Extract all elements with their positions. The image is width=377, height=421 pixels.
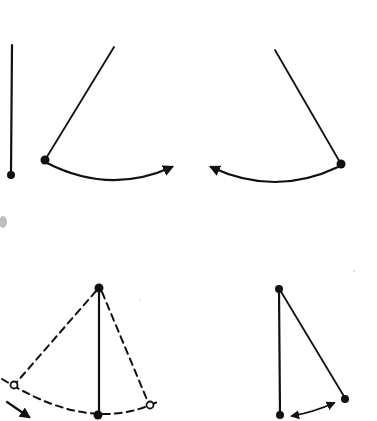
pendulum-bob <box>7 171 15 179</box>
displaced-bob <box>341 395 349 403</box>
fig-amplitude <box>2 284 160 420</box>
pendulum-string <box>45 47 114 160</box>
fig-rest <box>7 45 15 179</box>
double-headed-arrow <box>292 403 334 416</box>
fig-swing-right <box>41 47 173 180</box>
pivot-point <box>275 285 283 293</box>
rest-string <box>279 290 280 414</box>
extreme-left-bob <box>11 382 18 389</box>
displaced-string <box>280 290 345 398</box>
pendulum-string <box>11 45 12 173</box>
dashed-string-right <box>102 292 148 402</box>
pendulum-diagram <box>0 0 377 421</box>
rest-bob <box>276 411 284 419</box>
pendulum-bob <box>94 411 103 420</box>
pivot-point <box>95 284 104 293</box>
fig-swing-left <box>211 50 346 182</box>
scan-speck <box>353 270 355 272</box>
dashed-string-left <box>16 291 96 383</box>
motion-arrow <box>7 402 29 417</box>
swing-arrow-right <box>47 163 172 180</box>
dashed-swing-arc <box>2 379 160 414</box>
fig-small-oscillation <box>275 285 349 419</box>
pendulum-string <box>275 50 341 164</box>
scan-speck <box>139 299 141 301</box>
scan-smudge <box>0 216 7 228</box>
swing-arrow-left <box>211 167 338 182</box>
extreme-right-bob <box>147 402 154 409</box>
